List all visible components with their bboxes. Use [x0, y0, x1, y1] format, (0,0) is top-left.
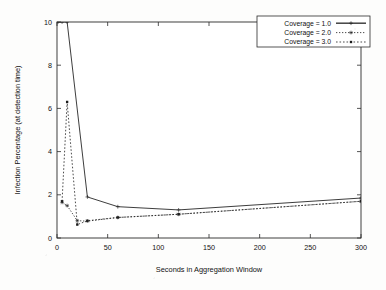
- legend-label-coverage-2: Coverage = 2.0: [284, 29, 331, 37]
- x-tick-label: 200: [254, 243, 266, 252]
- y-tick-label: 10: [44, 18, 52, 27]
- x-tick-label: 250: [304, 243, 316, 252]
- x-tick-label: 0: [55, 243, 59, 252]
- x-tick-label: 50: [104, 243, 112, 252]
- y-tick-label: 8: [48, 61, 52, 70]
- plot-frame: [57, 22, 361, 238]
- x-tick-label: 300: [355, 243, 367, 252]
- line-chart: 050100150200250300 0246810 Seconds in Ag…: [0, 0, 386, 290]
- y-axis-label: Infection Percentage (at detection time): [13, 66, 22, 195]
- legend-label-coverage-1: Coverage = 1.0: [284, 20, 331, 28]
- x-tick-label: 150: [203, 243, 215, 252]
- chart-figure: 050100150200250300 0246810 Seconds in Ag…: [0, 0, 386, 290]
- legend-label-coverage-3: Coverage = 3.0: [284, 38, 331, 46]
- y-tick-label: 6: [48, 104, 52, 113]
- x-axis-label: Seconds in Aggregation Window: [156, 265, 263, 274]
- y-tick-label: 2: [48, 190, 52, 199]
- x-tick-label: 100: [152, 243, 164, 252]
- y-axis-tick-labels: 0246810: [44, 18, 52, 243]
- x-axis-tick-labels: 050100150200250300: [55, 243, 367, 252]
- legend: Coverage = 1.0 Coverage = 2.0 Coverage =…: [257, 16, 370, 47]
- y-tick-label: 4: [48, 147, 52, 156]
- y-tick-label: 0: [48, 234, 52, 243]
